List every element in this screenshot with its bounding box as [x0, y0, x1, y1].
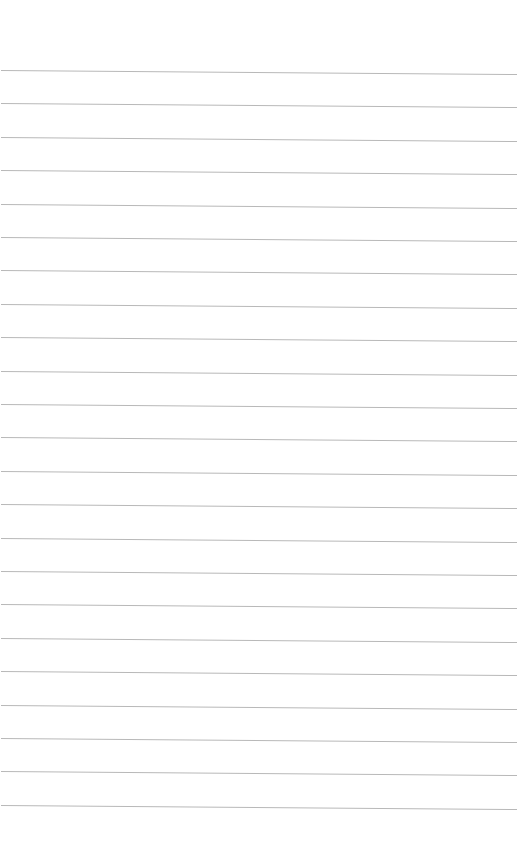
ruled-line [1, 204, 517, 209]
lined-paper [0, 0, 518, 860]
ruled-line [1, 671, 517, 676]
ruled-line [1, 170, 517, 175]
ruled-line [1, 437, 517, 442]
ruled-line [1, 571, 517, 576]
ruled-line [1, 270, 517, 275]
ruled-line [1, 103, 517, 108]
ruled-line [1, 805, 517, 810]
ruled-line [1, 137, 517, 142]
ruled-line [1, 538, 517, 543]
ruled-line [1, 304, 517, 309]
ruled-line [1, 604, 517, 609]
ruled-line [1, 771, 517, 776]
ruled-line [1, 337, 517, 342]
ruled-line [1, 638, 517, 643]
ruled-line [1, 371, 517, 376]
ruled-line [1, 738, 517, 743]
ruled-line [1, 237, 517, 242]
ruled-line [1, 471, 517, 476]
ruled-line [1, 404, 517, 409]
ruled-line [1, 70, 517, 75]
ruled-line [1, 504, 517, 509]
ruled-line [1, 705, 517, 710]
